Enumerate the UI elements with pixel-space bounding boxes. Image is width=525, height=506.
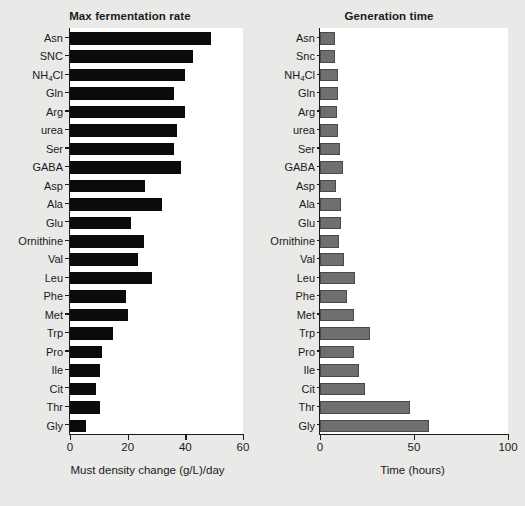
category-label: SNC bbox=[0, 46, 63, 66]
bar bbox=[70, 87, 174, 100]
chart-title-left: Max fermentation rate bbox=[30, 10, 230, 22]
bar bbox=[320, 161, 343, 174]
bar bbox=[320, 124, 338, 137]
bar bbox=[320, 364, 359, 377]
bar bbox=[70, 124, 177, 137]
x-axis-tick bbox=[508, 435, 509, 440]
bar-row: Arg bbox=[262, 102, 510, 122]
figure-root: Max fermentation rate AsnSNCNH4ClGlnArgu… bbox=[0, 0, 525, 506]
bar bbox=[70, 198, 162, 211]
category-label: Trp bbox=[0, 323, 63, 343]
bar-row: urea bbox=[262, 120, 510, 140]
category-label: Phe bbox=[262, 286, 315, 306]
category-label: Ornithine bbox=[0, 231, 63, 251]
bar-row: urea bbox=[0, 120, 245, 140]
category-label: Thr bbox=[0, 397, 63, 417]
bar bbox=[70, 32, 211, 45]
bar bbox=[320, 253, 344, 266]
bar-row: Gly bbox=[262, 416, 510, 436]
bar-row: Asp bbox=[0, 176, 245, 196]
bar bbox=[70, 364, 100, 377]
category-label: Pro bbox=[262, 342, 315, 362]
category-label: Asp bbox=[0, 176, 63, 196]
bar-row: Cit bbox=[262, 379, 510, 399]
category-label: Ala bbox=[0, 194, 63, 214]
bar bbox=[320, 290, 347, 303]
bar bbox=[320, 309, 354, 322]
bar bbox=[320, 50, 335, 63]
bar bbox=[70, 290, 126, 303]
category-label: GABA bbox=[0, 157, 63, 177]
bar bbox=[320, 327, 370, 340]
x-axis-tick-label: 0 bbox=[50, 441, 90, 453]
x-axis-tick-label: 40 bbox=[165, 441, 205, 453]
category-label: Arg bbox=[262, 102, 315, 122]
bar-row: Met bbox=[262, 305, 510, 325]
x-axis-tick-label: 60 bbox=[223, 441, 263, 453]
category-label: urea bbox=[0, 120, 63, 140]
bar-row: Ala bbox=[262, 194, 510, 214]
bar-row: Ser bbox=[0, 139, 245, 159]
x-axis-tick-label: 20 bbox=[108, 441, 148, 453]
x-axis-tick bbox=[128, 435, 129, 440]
bar-row: Trp bbox=[0, 323, 245, 343]
bar bbox=[70, 50, 193, 63]
category-label: Cit bbox=[262, 379, 315, 399]
chart-panel-max-fermentation-rate: Max fermentation rate AsnSNCNH4ClGlnArgu… bbox=[0, 0, 262, 506]
bar-row: Phe bbox=[0, 286, 245, 306]
category-label: Snc bbox=[262, 46, 315, 66]
bar bbox=[70, 180, 145, 193]
bar-rows-left: AsnSNCNH4ClGlnArgureaSerGABAAspAlaGluOrn… bbox=[0, 28, 245, 434]
x-axis-tick bbox=[414, 435, 415, 440]
bar bbox=[70, 272, 152, 285]
bar-row: Gly bbox=[0, 416, 245, 436]
bar bbox=[320, 217, 341, 230]
category-label: Leu bbox=[0, 268, 63, 288]
bar bbox=[70, 106, 185, 119]
category-label: Asn bbox=[0, 28, 63, 48]
category-label: Met bbox=[0, 305, 63, 325]
bar bbox=[70, 217, 131, 230]
bar bbox=[320, 87, 338, 100]
bar-rows-right: AsnSncNH4ClGlnArgureaSerGABAAspAlaGluOrn… bbox=[262, 28, 510, 434]
category-label: Asp bbox=[262, 176, 315, 196]
bar-row: Glu bbox=[262, 213, 510, 233]
category-label: NH4Cl bbox=[0, 65, 63, 85]
category-label: Gly bbox=[262, 416, 315, 436]
x-axis-tick bbox=[243, 435, 244, 440]
bar bbox=[320, 198, 341, 211]
bar-row: Pro bbox=[0, 342, 245, 362]
bar bbox=[320, 143, 340, 156]
bar-row: Gln bbox=[0, 83, 245, 103]
bar-row: Gln bbox=[262, 83, 510, 103]
bar bbox=[70, 161, 181, 174]
bar-row: Leu bbox=[262, 268, 510, 288]
bar-row: Val bbox=[262, 249, 510, 269]
category-label: Val bbox=[0, 249, 63, 269]
bar-row: SNC bbox=[0, 46, 245, 66]
bar bbox=[320, 69, 338, 82]
bar bbox=[320, 180, 336, 193]
bar-row: Val bbox=[0, 249, 245, 269]
bar bbox=[320, 235, 339, 248]
category-label: Gly bbox=[0, 416, 63, 436]
bar bbox=[70, 235, 144, 248]
bar bbox=[320, 272, 355, 285]
bar bbox=[320, 346, 354, 359]
bar-row: Thr bbox=[262, 397, 510, 417]
bar-row: Ornithine bbox=[262, 231, 510, 251]
bar-row: Ile bbox=[262, 360, 510, 380]
bar-row: Asp bbox=[262, 176, 510, 196]
bar-row: Met bbox=[0, 305, 245, 325]
category-label: Glu bbox=[262, 213, 315, 233]
bar-row: Thr bbox=[0, 397, 245, 417]
category-label: Ile bbox=[0, 360, 63, 380]
x-axis-label-left: Must density change (g/L)/day bbox=[40, 464, 255, 476]
bar-row: Glu bbox=[0, 213, 245, 233]
category-label: Ser bbox=[0, 139, 63, 159]
x-axis-tick bbox=[70, 435, 71, 440]
bar bbox=[70, 253, 138, 266]
category-label: Cit bbox=[0, 379, 63, 399]
category-label: Glu bbox=[0, 213, 63, 233]
bar-row: Phe bbox=[262, 286, 510, 306]
